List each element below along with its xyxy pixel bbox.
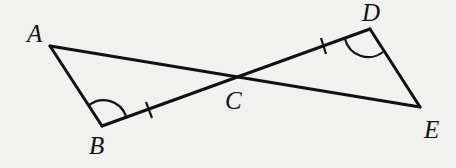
label-e: E [424, 117, 439, 142]
segment-de [370, 29, 420, 107]
label-c: C [225, 88, 242, 113]
label-d: D [362, 0, 380, 25]
geometry-figure: A B C D E [0, 0, 456, 168]
triangles-drawing [0, 0, 456, 168]
label-b: B [89, 133, 104, 158]
label-a: A [27, 21, 42, 46]
segment-ab [50, 46, 102, 126]
